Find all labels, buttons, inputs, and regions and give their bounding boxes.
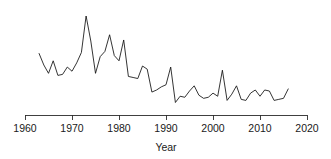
- x-axis-label-1970: 1970: [60, 122, 84, 134]
- data-series-group: [39, 16, 288, 102]
- x-axis: 1960197019801990200020102020: [13, 115, 319, 134]
- x-axis-label-2000: 2000: [201, 122, 225, 134]
- x-axis-label-1990: 1990: [154, 122, 178, 134]
- x-axis-ticks: [25, 115, 307, 120]
- x-axis-label-1980: 1980: [107, 122, 131, 134]
- chart-container: 1960197019801990200020102020 Year: [0, 0, 331, 159]
- x-axis-tick-labels: 1960197019801990200020102020: [13, 122, 319, 134]
- x-axis-label-2010: 2010: [248, 122, 272, 134]
- line-chart: 1960197019801990200020102020 Year: [0, 0, 331, 159]
- x-axis-label-2020: 2020: [295, 122, 319, 134]
- series-line-count: [39, 16, 288, 102]
- x-axis-label-1960: 1960: [13, 122, 37, 134]
- x-axis-title: Year: [155, 141, 177, 153]
